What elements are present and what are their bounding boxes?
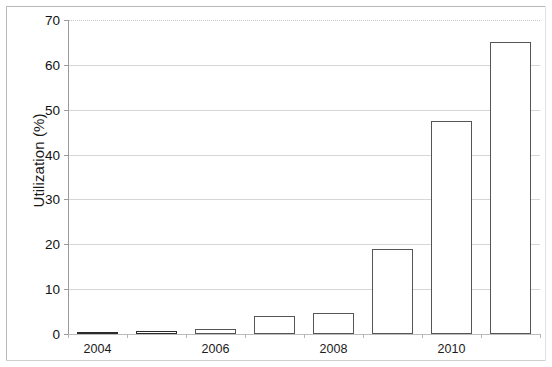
y-tick-label-30: 30: [20, 192, 60, 207]
x-tick-label-2004: 2004: [58, 342, 138, 356]
y-tick-label-20: 20: [20, 237, 60, 252]
x-tick-mark-2: [186, 334, 187, 338]
y-tick-label-50: 50: [20, 102, 60, 117]
x-tick-mark-3: [245, 334, 246, 338]
figure-border-bottom: [6, 360, 546, 361]
gridline-y-50: [68, 110, 540, 111]
bar-2011: [490, 42, 531, 334]
y-tick-label-10: 10: [20, 282, 60, 297]
x-tick-mark-end: [540, 334, 541, 338]
x-tick-mark-1: [127, 334, 128, 338]
x-tick-mark-0: [68, 334, 69, 338]
y-tick-label-60: 60: [20, 57, 60, 72]
x-tick-label-2008: 2008: [294, 342, 374, 356]
x-tick-mark-7: [481, 334, 482, 338]
bar-2007: [254, 316, 295, 334]
bar-2010: [431, 121, 472, 334]
x-tick-label-2010: 2010: [412, 342, 492, 356]
plot-area: [68, 20, 540, 334]
x-tick-mark-4: [304, 334, 305, 338]
y-tick-label-0: 0: [20, 327, 60, 342]
x-tick-label-2006: 2006: [176, 342, 256, 356]
bar-2008: [313, 313, 354, 334]
gridline-y-60: [68, 65, 540, 66]
bar-chart-figure: Utilization (%) 010203040506070200420062…: [0, 0, 552, 367]
x-tick-mark-6: [422, 334, 423, 338]
bar-2009: [372, 249, 413, 334]
x-tick-mark-5: [363, 334, 364, 338]
y-tick-label-70: 70: [20, 13, 60, 28]
y-tick-label-40: 40: [20, 147, 60, 162]
gridline-y-70: [68, 20, 540, 22]
y-axis-line: [68, 20, 69, 334]
figure-border-right: [545, 6, 546, 361]
